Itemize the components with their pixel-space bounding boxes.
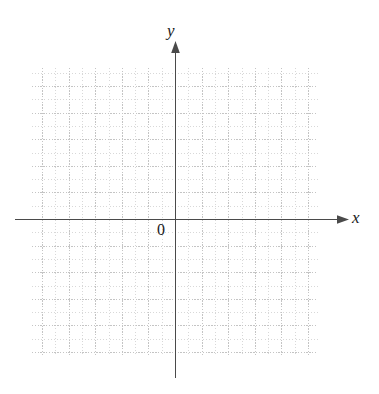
x-axis-label: x	[352, 209, 360, 226]
y-axis-label: y	[167, 22, 175, 39]
coordinate-grid-figure: y x 0	[0, 0, 379, 394]
grid-canvas	[0, 0, 379, 394]
origin-label: 0	[157, 222, 165, 238]
figure-background	[0, 0, 379, 394]
